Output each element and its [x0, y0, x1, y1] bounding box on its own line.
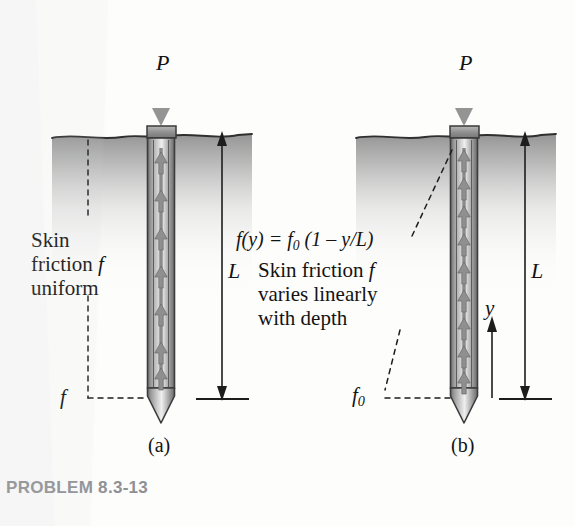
pile-cap-a	[147, 126, 176, 138]
length-label-a: L	[228, 258, 240, 284]
length-label-b: L	[531, 258, 543, 284]
problem-caption: PROBLEM 8.3-13	[6, 478, 148, 498]
note-line-b-1-text: Skin friction	[258, 258, 369, 282]
load-label-b: P	[459, 50, 472, 76]
note-line-a-3: uniform	[31, 276, 99, 300]
depth-label-b: y	[485, 296, 494, 320]
note-line-a-2-text: friction	[31, 252, 98, 276]
friction-symbol-a: f	[98, 252, 104, 276]
formula-rhs: (1 – y/L)	[300, 228, 374, 250]
note-line-b-1: Skin friction f	[258, 258, 375, 282]
friction-leader-b	[385, 330, 450, 398]
friction-label-b-subscript: 0	[358, 393, 365, 409]
note-line-a-2: friction f	[31, 252, 104, 276]
panel-label-a: (a)	[148, 434, 170, 457]
pile-friction-figure: P Skin friction f uniform f L (a) P f(y)…	[0, 0, 575, 526]
pile-cap-b	[450, 126, 479, 138]
note-line-b-3: with depth	[258, 306, 347, 330]
load-label-a: P	[156, 50, 169, 76]
friction-symbol-b: f	[369, 258, 375, 282]
depth-axis-b	[487, 316, 497, 398]
formula-lhs-subscript: 0	[293, 238, 300, 253]
friction-formula-b: f(y) = f0 (1 – y/L)	[236, 228, 374, 254]
friction-label-b: f0	[352, 383, 365, 410]
friction-label-a: f	[60, 385, 66, 409]
panel-label-b: (b)	[451, 434, 474, 457]
note-line-b-2: varies linearly	[258, 282, 378, 306]
note-line-a-1: Skin	[31, 228, 70, 252]
formula-lhs: f(y) = f	[236, 228, 293, 250]
